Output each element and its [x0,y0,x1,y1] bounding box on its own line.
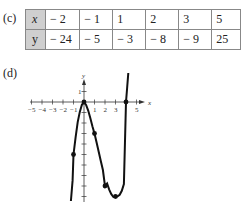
cubic-graph: x y −5 −4 −3 −2 −1 1 2 3 5 1 [0,0,241,205]
point-neg1-neg5 [71,152,76,157]
svg-text:−1: −1 [70,106,78,114]
y-axis-label: y [81,72,86,80]
point-1-neg3 [92,131,97,136]
svg-text:−2: −2 [60,106,68,114]
point-0-0 [82,100,87,105]
point-2-neg8 [103,184,108,189]
point-3-neg9 [113,194,118,199]
svg-text:2: 2 [104,106,108,114]
svg-text:−4: −4 [39,106,47,114]
svg-text:1: 1 [93,106,97,114]
svg-text:−3: −3 [49,106,57,114]
x-axis-label: x [147,99,152,107]
svg-text:−5: −5 [28,106,36,114]
svg-text:5: 5 [135,106,139,114]
svg-text:3: 3 [114,106,118,114]
point-4-0 [124,100,129,105]
y-tick-label: 1 [78,88,82,96]
x-axis-arrow-icon [139,100,145,104]
